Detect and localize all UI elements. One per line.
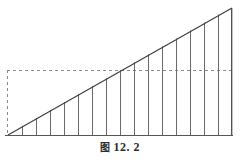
figure-caption-label: 图 xyxy=(100,142,111,153)
figure-drawing-canvas xyxy=(0,0,240,161)
figure-caption-number: 12. 2 xyxy=(114,140,141,154)
figure-container: 图12. 2 xyxy=(0,0,240,161)
rectangle-strips-group xyxy=(23,8,232,135)
figure-caption: 图12. 2 xyxy=(0,139,240,155)
